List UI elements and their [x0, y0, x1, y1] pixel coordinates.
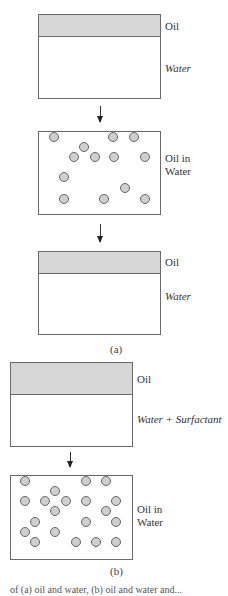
oil-droplet [99, 194, 109, 204]
oil-label-a1: Oil [165, 20, 179, 33]
oil-droplet [20, 496, 30, 506]
oil-droplet [109, 152, 119, 162]
water-label-a1: Water [165, 62, 191, 75]
oil-droplet [40, 496, 50, 506]
oil-layer [39, 15, 160, 37]
panel-label-a: (a) [110, 343, 122, 355]
container-b1 [10, 362, 133, 447]
figure-caption-partial: of (a) oil and water, (b) oil and water … [10, 584, 182, 595]
oil-droplet [71, 537, 81, 547]
oil-droplet [111, 537, 121, 547]
oil-droplet [59, 194, 69, 204]
oil-layer [11, 363, 132, 395]
oil-in-water-label-a: Oil in Water [165, 152, 191, 178]
oil-droplet [20, 476, 30, 486]
oil-droplet [91, 537, 101, 547]
oil-droplet [120, 183, 130, 193]
panel-label-b: (b) [110, 565, 123, 577]
down-arrow-icon [100, 106, 101, 122]
label-line1: Oil in [137, 503, 163, 516]
oil-droplet [101, 476, 111, 486]
oil-droplet [30, 517, 40, 527]
oil-droplet [50, 527, 60, 537]
oil-droplet [108, 132, 118, 142]
label-line2: Water [137, 516, 163, 529]
oil-droplet [61, 496, 71, 506]
container-a1 [38, 14, 161, 99]
oil-droplet [30, 537, 40, 547]
label-line2: Water [165, 165, 191, 178]
oil-droplet [50, 486, 60, 496]
oil-droplet [140, 152, 150, 162]
oil-droplet [129, 132, 139, 142]
oil-droplet [81, 517, 91, 527]
oil-droplet [111, 517, 121, 527]
oil-droplet [101, 506, 111, 516]
oil-droplet [20, 527, 30, 537]
oil-droplet [81, 476, 91, 486]
oil-in-water-label-b: Oil in Water [137, 503, 163, 529]
oil-droplet [49, 132, 59, 142]
water-surfactant-label: Water + Surfactant [137, 413, 222, 426]
oil-layer [39, 252, 160, 274]
oil-droplet [69, 152, 79, 162]
oil-droplet [50, 506, 60, 516]
oil-droplet [90, 152, 100, 162]
oil-droplet [140, 194, 150, 204]
oil-droplet [111, 496, 121, 506]
oil-label-a3: Oil [165, 256, 179, 269]
down-arrow-icon [100, 224, 101, 242]
down-arrow-icon [70, 452, 71, 467]
oil-label-b1: Oil [137, 373, 151, 386]
container-a3 [38, 251, 161, 335]
oil-droplet [59, 172, 69, 182]
oil-droplet [81, 496, 91, 506]
label-line1: Oil in [165, 152, 191, 165]
water-label-a3: Water [165, 290, 191, 303]
oil-droplet [79, 142, 89, 152]
